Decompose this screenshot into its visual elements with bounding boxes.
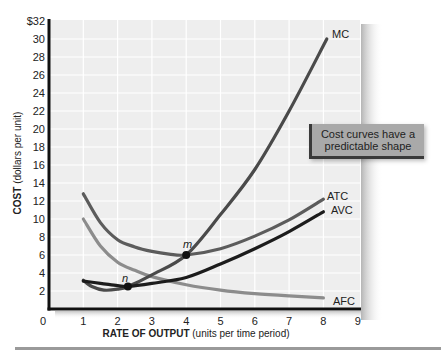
bottom-separator [15, 347, 441, 350]
point-label-m: m [183, 238, 192, 250]
point-m [182, 251, 190, 259]
cost-curves-chart: $3230282624222018161412108642 0123456789… [0, 0, 441, 351]
y-tick-label: 22 [33, 105, 45, 117]
x-tick-label: 1 [80, 315, 86, 327]
x-tick-label: 0 [40, 315, 46, 327]
y-tick-label: 2 [39, 285, 45, 297]
curve-label-atc: ATC [327, 190, 348, 202]
x-tick-label: 2 [115, 315, 121, 327]
y-tick-label: 24 [33, 87, 45, 99]
y-tick-labels: $3230282624222018161412108642 [27, 15, 45, 297]
y-axis-title-rest: (dollars per unit) [12, 112, 23, 187]
y-tick-label: 12 [33, 195, 45, 207]
x-tick-label: 7 [286, 315, 292, 327]
curve-label-afc: AFC [333, 295, 355, 307]
x-tick-label: 4 [183, 315, 189, 327]
chart-canvas: $3230282624222018161412108642 0123456789… [0, 0, 441, 351]
y-tick-label: 8 [39, 231, 45, 243]
y-tick-label: 16 [33, 159, 45, 171]
y-tick-label: 18 [33, 141, 45, 153]
x-axis-title: RATE OF OUTPUT (units per time period) [102, 328, 289, 339]
y-tick-label: 10 [33, 213, 45, 225]
callout-line-2: predictable shape [325, 140, 412, 152]
y-tick-label: 28 [33, 51, 45, 63]
x-tick-label: 3 [149, 315, 155, 327]
callout-box: Cost curves have a predictable shape [309, 124, 424, 159]
point-label-n: n [122, 272, 128, 284]
y-tick-label: 26 [33, 69, 45, 81]
y-tick-label: 4 [39, 267, 45, 279]
curve-label-mc: MC [332, 28, 349, 40]
plot-shadow-bottom [55, 311, 361, 319]
x-tick-label: 9 [355, 315, 361, 327]
x-axis-title-bold: RATE OF OUTPUT [102, 328, 189, 339]
y-tick-label: 20 [33, 123, 45, 135]
x-axis-title-rest: (units per time period) [189, 328, 289, 339]
x-tick-label: 5 [217, 315, 223, 327]
x-tick-label: 8 [320, 315, 326, 327]
curve-label-avc: AVC [331, 204, 353, 216]
y-tick-label: $32 [27, 15, 45, 27]
y-tick-label: 30 [33, 33, 45, 45]
x-tick-label: 6 [252, 315, 258, 327]
callout-line-1: Cost curves have a [321, 128, 415, 140]
plot-shadow-right [361, 24, 383, 320]
y-tick-label: 14 [33, 177, 45, 189]
y-axis-title: COST (dollars per unit) [12, 112, 23, 215]
y-axis-title-bold: COST [12, 187, 23, 215]
y-tick-label: 6 [39, 249, 45, 261]
